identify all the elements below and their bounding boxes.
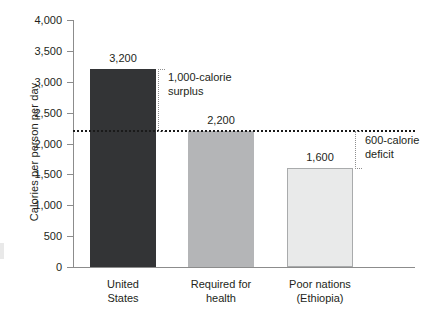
y-tick-3000	[67, 82, 73, 83]
category-label-line2: (Ethiopia)	[275, 291, 365, 305]
surplus-annotation: 1,000-calorie surplus	[168, 70, 232, 98]
category-label-line1: Required for	[176, 277, 266, 291]
y-tick-3500	[67, 51, 73, 52]
bar-required-for-health	[188, 131, 254, 267]
y-tick-1000	[67, 205, 73, 206]
y-tick-label-3500: 3,500	[2, 45, 62, 57]
y-tick-500	[67, 236, 73, 237]
category-label-line1: United	[83, 277, 163, 291]
y-tick-label-1500: 1,500	[2, 168, 62, 180]
bar-value-required-for-health: 2,200	[188, 114, 254, 126]
category-label-united-states: United States	[83, 277, 163, 305]
y-tick-label-0: 0	[2, 261, 62, 273]
y-tick-label-4000: 4,000	[2, 14, 62, 26]
category-label-required-for-health: Required for health	[176, 277, 266, 305]
surplus-annotation-line1: 1,000-calorie	[168, 70, 232, 84]
bar-value-poor-nations: 1,600	[287, 151, 353, 163]
y-tick-0	[67, 267, 73, 268]
x-axis-line	[73, 267, 415, 268]
reference-line-2200	[73, 130, 415, 132]
y-tick-label-500: 500	[2, 230, 62, 242]
y-tick-label-1000: 1,000	[2, 199, 62, 211]
deficit-bracket	[355, 131, 362, 169]
category-label-line2: health	[176, 291, 266, 305]
category-label-line1: Poor nations	[275, 277, 365, 291]
y-tick-label-2500: 2,500	[2, 107, 62, 119]
deficit-annotation-line1: 600-calorie	[365, 133, 419, 147]
category-label-poor-nations: Poor nations (Ethiopia)	[275, 277, 365, 305]
bar-value-united-states: 3,200	[90, 52, 156, 64]
y-tick-label-3000: 3,000	[2, 76, 62, 88]
category-label-line2: States	[83, 291, 163, 305]
bar-united-states	[90, 69, 156, 267]
bar-poor-nations	[287, 168, 353, 267]
surplus-annotation-line2: surplus	[168, 84, 232, 98]
y-tick-4000	[67, 20, 73, 21]
surplus-bracket	[158, 69, 165, 132]
y-tick-1500	[67, 174, 73, 175]
deficit-annotation-line2: deficit	[365, 147, 419, 161]
deficit-annotation: 600-calorie deficit	[365, 133, 419, 161]
y-axis-line	[73, 20, 74, 268]
page-edge-artifact	[0, 243, 4, 259]
y-tick-2500	[67, 113, 73, 114]
bar-chart: Calories per person per day 4,000 3,500 …	[0, 0, 428, 315]
y-tick-label-2000: 2,000	[2, 138, 62, 150]
y-tick-2000	[67, 144, 73, 145]
